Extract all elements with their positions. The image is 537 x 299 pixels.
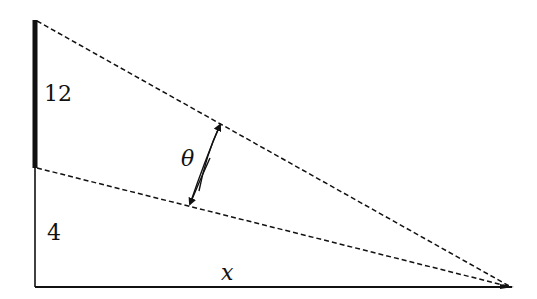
- label-12: 12: [44, 81, 72, 106]
- lower-sight-line: [37, 168, 511, 287]
- label-4: 4: [47, 220, 61, 245]
- label-x: x: [221, 260, 234, 285]
- label-theta: θ: [181, 146, 194, 171]
- viewing-angle-diagram: 12 4 θ x: [0, 0, 537, 299]
- upper-sight-line: [37, 21, 511, 287]
